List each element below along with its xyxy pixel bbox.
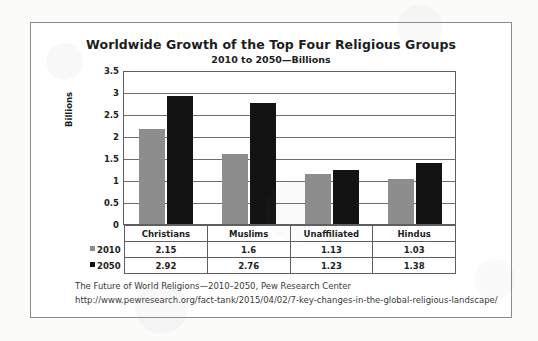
legend-corner-cell: [89, 226, 125, 242]
bar-group: [291, 72, 374, 224]
bar-2010-christians: [139, 129, 165, 224]
y-tick-label: 2: [85, 132, 119, 142]
bar-group: [124, 72, 207, 224]
y-tick-label: 3: [85, 88, 119, 98]
legend-item-2010: 2010: [89, 242, 125, 258]
plot-area: [123, 71, 456, 225]
footer-url: http://www.pewresearch.org/fact-tank/201…: [75, 293, 515, 307]
table-cell: 1.38: [373, 258, 456, 274]
y-axis-tick-labels: 00.511.522.533.5: [81, 71, 119, 225]
table-row: 20102.151.61.131.03: [89, 242, 456, 258]
legend-item-2050: 2050: [89, 258, 125, 274]
data-table: ChristiansMuslimsUnaffiliatedHindus 2010…: [89, 225, 456, 274]
y-tick-label: 1: [85, 176, 119, 186]
footer-source: The Future of World Religions—2010–2050,…: [75, 279, 515, 293]
table-row: 20502.922.761.231.38: [89, 258, 456, 274]
bar-group: [207, 72, 290, 224]
table-column-header: Muslims: [207, 226, 290, 242]
bar-2050-hindus: [416, 163, 442, 224]
table-cell: 1.23: [290, 258, 373, 274]
legend-label-2010: 2010: [97, 245, 121, 255]
data-table-wrapper: ChristiansMuslimsUnaffiliatedHindus 2010…: [89, 225, 456, 274]
table-column-header: Christians: [125, 226, 208, 242]
table-cell: 2.92: [125, 258, 208, 274]
y-tick-label: 1.5: [85, 154, 119, 164]
legend-label-2050: 2050: [97, 261, 121, 271]
bar-2010-muslims: [222, 154, 248, 224]
chart-subtitle: 2010 to 2050—Billions: [31, 54, 511, 65]
chart-title: Worldwide Growth of the Top Four Religio…: [31, 37, 511, 52]
bar-2050-christians: [167, 96, 193, 224]
table-cell: 1.13: [290, 242, 373, 258]
legend-swatch-2050: [90, 262, 95, 267]
table-cell: 2.15: [125, 242, 208, 258]
table-column-header: Unaffiliated: [290, 226, 373, 242]
table-body: 20102.151.61.131.0320502.922.761.231.38: [89, 242, 456, 274]
bar-2050-unaffiliated: [333, 170, 359, 224]
y-tick-label: 0.5: [85, 198, 119, 208]
chart-footer: The Future of World Religions—2010–2050,…: [75, 279, 515, 307]
y-tick-label: 2.5: [85, 110, 119, 120]
table-cell: 1.03: [373, 242, 456, 258]
legend-swatch-2010: [90, 246, 95, 251]
y-axis-title: Billions: [64, 92, 74, 127]
table-column-header: Hindus: [373, 226, 456, 242]
chart-page: Worldwide Growth of the Top Four Religio…: [0, 0, 538, 341]
table-header-row: ChristiansMuslimsUnaffiliatedHindus: [89, 226, 456, 242]
y-tick-label: 3.5: [85, 66, 119, 76]
table-cell: 1.6: [207, 242, 290, 258]
bar-2010-hindus: [388, 179, 414, 224]
bar-2010-unaffiliated: [305, 174, 331, 224]
bar-2050-muslims: [250, 103, 276, 224]
chart-frame: Worldwide Growth of the Top Four Religio…: [30, 22, 512, 318]
table-cell: 2.76: [207, 258, 290, 274]
bar-group: [374, 72, 457, 224]
